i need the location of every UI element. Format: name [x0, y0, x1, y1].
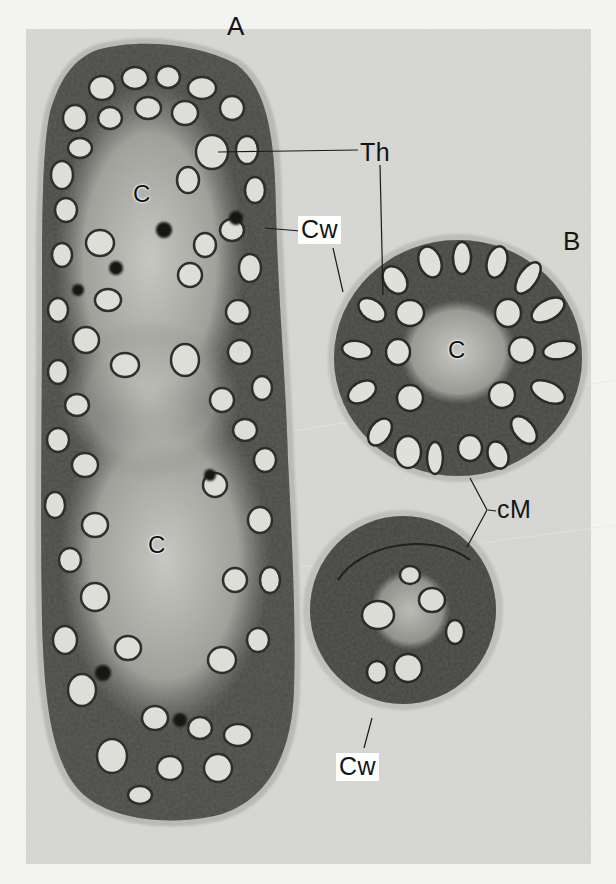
micrograph-canvas: [0, 0, 616, 884]
label-cell-wall-bottom: Cw: [336, 753, 379, 781]
panel-label-a: A: [227, 13, 245, 39]
label-center-b: C: [448, 338, 466, 362]
label-cell-membrane: cM: [497, 497, 531, 522]
label-center-a-upper: C: [133, 182, 151, 206]
panel-label-b: B: [563, 228, 581, 254]
cell-lower: [303, 510, 503, 710]
cell-a: [35, 38, 300, 826]
micrograph-figure: A B Th Cw C C C cM Cw: [0, 0, 616, 884]
label-cell-wall-top: Cw: [298, 216, 341, 244]
label-center-a-lower: C: [148, 533, 166, 557]
label-thylakoid: Th: [360, 140, 390, 165]
